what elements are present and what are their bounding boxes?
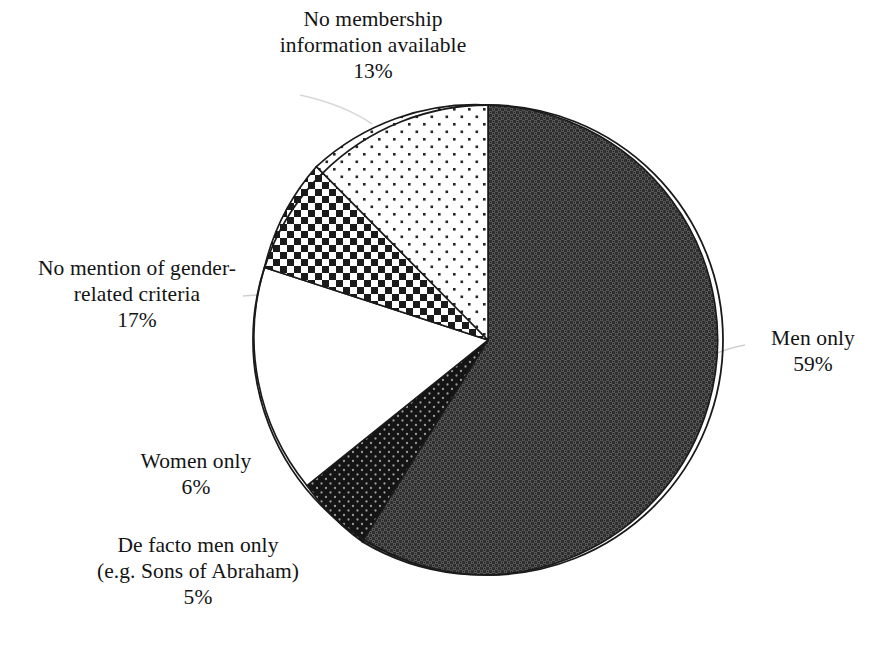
pie-label-men-only: Men only 59% <box>748 325 878 377</box>
pie-label-women-only: Women only 6% <box>86 448 306 500</box>
pie-chart: No membership information available 13% … <box>0 0 887 651</box>
pie-label-no-mention-gender: No mention of gender- related criteria 1… <box>6 255 268 334</box>
leader-line-no-membership <box>300 95 372 124</box>
pie-label-de-facto-men-only: De facto men only (e.g. Sons of Abraham)… <box>48 532 348 611</box>
pie-label-no-membership-info: No membership information available 13% <box>228 6 518 85</box>
